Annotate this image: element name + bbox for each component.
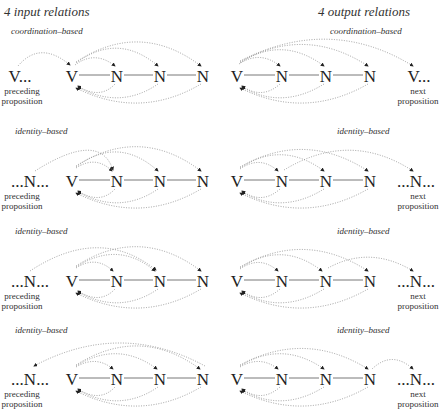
chain-node-n: N <box>320 273 332 290</box>
chain-node-n: N <box>364 371 376 388</box>
chain-node-n: N <box>197 371 209 388</box>
chain-node-n: N <box>276 173 288 190</box>
external-node: V... <box>408 68 431 85</box>
relation-graph <box>0 0 445 420</box>
chain-node-n: N <box>320 173 332 190</box>
chain-node-n: N <box>154 371 166 388</box>
caption: precedingproposition <box>1 86 42 106</box>
chain-node-n: N <box>320 68 332 85</box>
external-node: ...N... <box>11 173 49 190</box>
chain-node-n: N <box>111 371 123 388</box>
chain-node-v: V <box>66 273 78 290</box>
chain-node-n: N <box>197 173 209 190</box>
chain-node-n: N <box>111 173 123 190</box>
caption: nextproposition <box>397 389 438 409</box>
chain-node-v: V <box>231 273 243 290</box>
chain-node-v: V <box>66 173 78 190</box>
chain-node-n: N <box>111 273 123 290</box>
chain-node-n: N <box>154 68 166 85</box>
caption: precedingproposition <box>1 291 42 311</box>
external-node: ...N... <box>11 371 49 388</box>
caption: nextproposition <box>397 191 438 211</box>
chain-node-n: N <box>197 68 209 85</box>
caption: nextproposition <box>397 86 438 106</box>
chain-node-n: N <box>154 273 166 290</box>
chain-node-v: V <box>231 68 243 85</box>
chain-node-n: N <box>364 68 376 85</box>
chain-node-n: N <box>111 68 123 85</box>
external-node: ...N... <box>397 273 435 290</box>
caption: nextproposition <box>397 291 438 311</box>
chain-node-n: N <box>197 273 209 290</box>
chain-node-v: V <box>231 173 243 190</box>
chain-node-v: V <box>66 371 78 388</box>
chain-node-n: N <box>320 371 332 388</box>
chain-node-n: N <box>364 173 376 190</box>
caption: precedingproposition <box>1 191 42 211</box>
chain-node-v: V <box>231 371 243 388</box>
chain-node-n: N <box>364 273 376 290</box>
caption: precedingproposition <box>1 389 42 409</box>
chain-node-n: N <box>276 371 288 388</box>
chain-node-n: N <box>276 273 288 290</box>
external-node: ...N... <box>11 273 49 290</box>
chain-node-n: N <box>276 68 288 85</box>
chain-node-n: N <box>154 173 166 190</box>
external-node: ...N... <box>397 173 435 190</box>
external-node: V... <box>9 68 32 85</box>
external-node: ...N... <box>397 371 435 388</box>
chain-node-v: V <box>66 68 78 85</box>
